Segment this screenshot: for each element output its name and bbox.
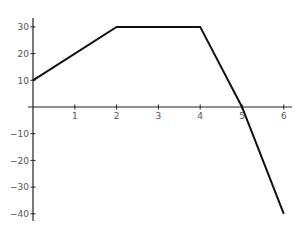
y-tick-label: 10 xyxy=(18,76,30,86)
x-tick-label: 3 xyxy=(156,111,162,121)
x-tick-label: 2 xyxy=(114,111,120,121)
tick-labels: 123456302010−10−20−30−40 xyxy=(10,22,287,219)
x-tick-label: 1 xyxy=(72,111,78,121)
y-tick-label: 30 xyxy=(18,22,30,32)
y-tick-label: −40 xyxy=(10,209,29,219)
y-tick-label: −20 xyxy=(10,156,29,166)
x-tick-label: 6 xyxy=(281,111,287,121)
y-tick-label: −10 xyxy=(10,129,29,139)
y-tick-label: 20 xyxy=(18,49,30,59)
line-chart: 123456302010−10−20−30−40 xyxy=(0,0,302,237)
y-tick-label: −30 xyxy=(10,182,29,192)
x-tick-label: 4 xyxy=(197,111,203,121)
